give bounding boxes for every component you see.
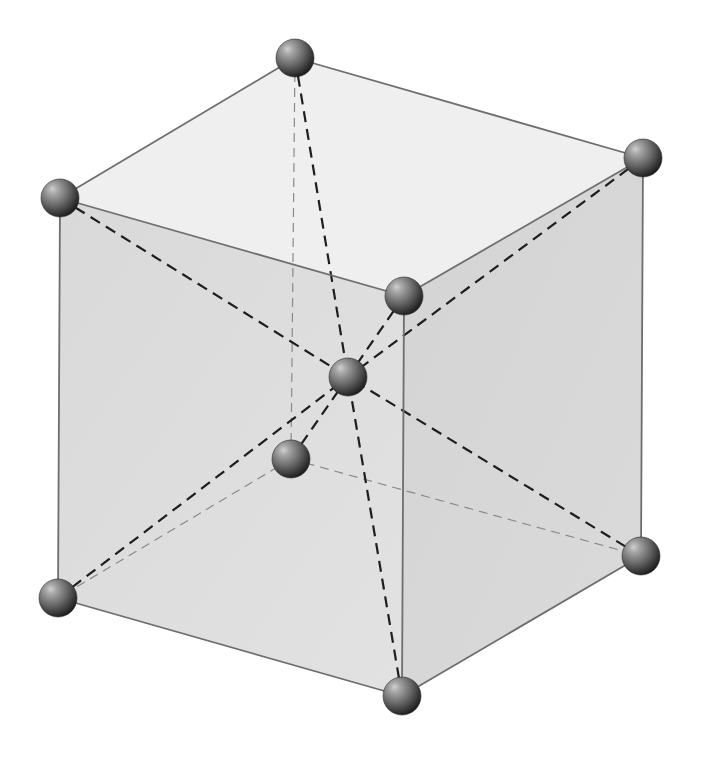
corner-atom-top-left xyxy=(41,179,79,217)
corner-atom-top-back xyxy=(276,39,314,77)
corner-atom-top-front xyxy=(385,277,423,315)
center-atom xyxy=(329,358,367,396)
corner-atom-top-right xyxy=(624,139,662,177)
corner-atom-bottom-left xyxy=(39,579,77,617)
hidden-atoms xyxy=(272,440,310,478)
corner-atom-bottom-right xyxy=(622,537,660,575)
corner-atom-bottom-back xyxy=(272,440,310,478)
corner-atom-bottom-front xyxy=(383,677,421,715)
bcc-unit-cell-diagram xyxy=(0,0,708,763)
